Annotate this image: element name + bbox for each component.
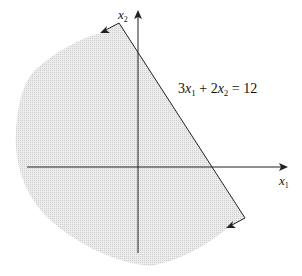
shaded-region [16, 23, 245, 266]
x2-axis-label: x2 [117, 7, 128, 24]
x1-axis-label: x1 [278, 173, 289, 190]
constraint-equation-label: 3x1 + 2x2 = 12 [178, 81, 257, 98]
diagram-canvas: x2 x1 3x1 + 2x2 = 12 [0, 0, 302, 276]
